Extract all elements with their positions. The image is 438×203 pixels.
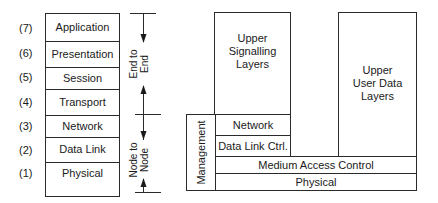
node-to-node-line2: Node: [139, 140, 150, 180]
node-to-node-label: Node to Node: [128, 140, 152, 180]
osi-layer-5-number: (5): [19, 71, 41, 83]
upper-user-data-line2: User Data: [353, 77, 403, 90]
osi-layer-3-label: Network: [45, 115, 120, 137]
osi-layer-2-number: (2): [19, 144, 41, 156]
medium-access-control-label: Medium Access Control: [215, 156, 417, 174]
osi-layer-4-number: (4): [19, 96, 41, 108]
osi-layer-2-label: Data Link: [45, 137, 120, 162]
osi-layer-6-number: (6): [19, 47, 41, 59]
end-to-end-label: End to End: [128, 48, 152, 80]
upper-signalling-label: Upper Signalling Layers: [214, 30, 291, 72]
osi-layer-7-label: Application: [45, 13, 120, 41]
upper-signalling-line3: Layers: [236, 58, 269, 71]
management-label: Management: [195, 118, 208, 188]
osi-layer-3-number: (3): [19, 120, 41, 132]
data-link-ctrl-label: Data Link Ctrl.: [215, 136, 291, 157]
upper-user-data-line1: Upper: [363, 64, 393, 77]
node-to-node-line1: Node to: [128, 140, 139, 180]
osi-layer-5-label: Session: [45, 67, 120, 89]
osi-layer-7-number: (7): [19, 22, 41, 34]
upper-signalling-line1: Upper: [238, 32, 268, 45]
physical-label: Physical: [215, 173, 417, 191]
end-to-end-line1: End to: [128, 48, 139, 80]
end-to-end-line2: End: [139, 48, 150, 80]
osi-layer-1-label: Physical: [45, 162, 120, 184]
osi-layer-1-number: (1): [19, 167, 41, 179]
upper-user-data-label: Upper User Data Layers: [338, 62, 417, 104]
upper-user-data-line3: Layers: [361, 90, 394, 103]
osi-layer-6-label: Presentation: [45, 41, 120, 67]
osi-layer-4-label: Transport: [45, 89, 120, 115]
network-label: Network: [215, 114, 291, 136]
upper-signalling-line2: Signalling: [229, 45, 277, 58]
